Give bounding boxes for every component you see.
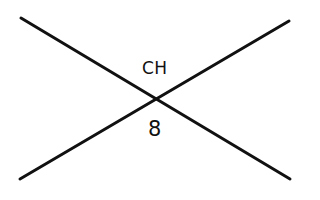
label-bottom: 8 xyxy=(148,119,161,140)
diagram-canvas: CH 8 xyxy=(0,0,320,200)
crossing-lines xyxy=(0,0,320,200)
label-top: CH xyxy=(142,60,168,77)
